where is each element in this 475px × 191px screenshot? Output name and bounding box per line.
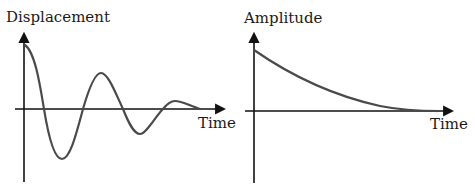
damped-oscillation-curve <box>25 45 200 159</box>
damped-oscillation-diagram: Displacement Time <box>6 8 236 182</box>
y-axis-label: Amplitude <box>243 9 323 27</box>
amplitude-decay-diagram: Amplitude Time <box>243 9 468 183</box>
x-axis-label: Time <box>198 114 236 132</box>
x-axis-label: Time <box>430 115 468 133</box>
amplitude-decay-curve <box>254 50 440 111</box>
y-axis-label: Displacement <box>6 8 110 26</box>
figure: Displacement Time Amplitude Time <box>0 0 475 191</box>
